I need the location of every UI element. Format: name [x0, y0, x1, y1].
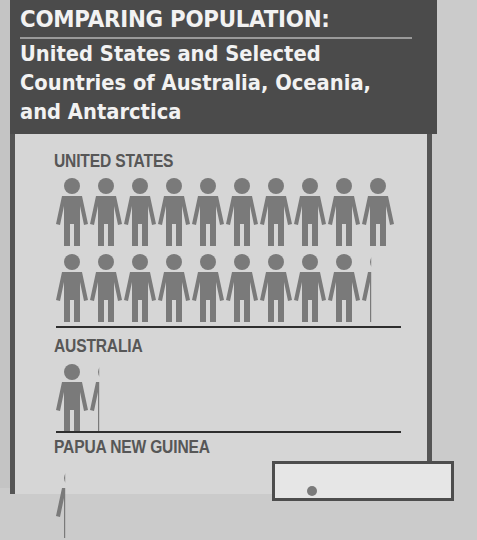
- label-united-states: UNITED STATES: [54, 150, 173, 172]
- figures-united-states-row-1: [55, 176, 400, 246]
- legend-person-icon: [307, 486, 317, 496]
- label-papua-new-guinea: PAPUA NEW GUINEA: [54, 436, 210, 458]
- chart-title: COMPARING POPULATION:: [20, 6, 330, 32]
- section-divider: [56, 431, 401, 433]
- chart-header: COMPARING POPULATION: United States and …: [10, 0, 437, 134]
- label-australia: AUSTRALIA: [54, 335, 143, 357]
- figures-australia: [55, 362, 400, 432]
- subtitle-line: United States and Selected: [20, 40, 411, 69]
- person-icons: [55, 362, 400, 434]
- title-underline: [20, 37, 412, 39]
- figures-united-states-row-2: [55, 252, 400, 322]
- page-edge: [0, 0, 10, 488]
- legend-box: [272, 461, 454, 501]
- person-icons: [55, 252, 400, 324]
- chart-subtitle: United States and Selected Countries of …: [20, 40, 411, 127]
- person-icons: [55, 176, 400, 248]
- section-divider: [56, 326, 401, 328]
- subtitle-line: and Antarctica: [20, 98, 411, 127]
- subtitle-line: Countries of Australia, Oceania,: [20, 69, 411, 98]
